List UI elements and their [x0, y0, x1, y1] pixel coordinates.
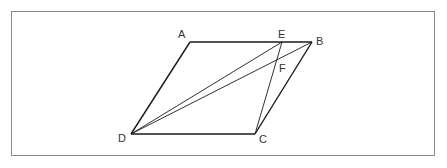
- label-A: A: [178, 28, 186, 40]
- label-B: B: [316, 35, 323, 47]
- label-D: D: [118, 132, 126, 144]
- segment-BC: [255, 42, 312, 134]
- label-C: C: [259, 133, 267, 145]
- segment-DB: [131, 42, 312, 134]
- label-F: F: [279, 62, 286, 74]
- segment-DA: [131, 42, 190, 134]
- label-E: E: [278, 28, 285, 40]
- geometry-diagram: A E B F D C: [0, 0, 447, 168]
